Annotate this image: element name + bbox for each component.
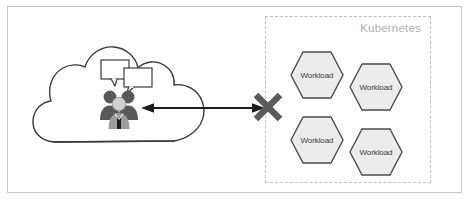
workload-hexagon[interactable]: Workload — [348, 127, 404, 177]
workload-hexagon[interactable]: Workload — [289, 115, 345, 165]
diagram-canvas: Kubernetes — [0, 0, 473, 205]
cloud-base-line — [54, 141, 174, 142]
hexagon-shape — [289, 115, 345, 165]
hexagon-shape — [289, 50, 345, 100]
hexagon-shape — [348, 62, 404, 112]
workload-hexagon[interactable]: Workload — [348, 62, 404, 112]
workload-hexagon[interactable]: Workload — [289, 50, 345, 100]
hexagon-shape — [348, 127, 404, 177]
